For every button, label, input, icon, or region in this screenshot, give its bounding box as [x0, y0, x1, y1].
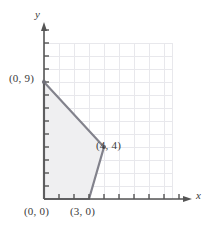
- y-axis-label: y: [35, 8, 40, 20]
- plot-canvas: [0, 0, 211, 229]
- coordinate-plane-figure: (0, 9) (4, 4) (0, 0) (3, 0) y x: [0, 0, 211, 229]
- vertex-label-0-0: (0, 0): [24, 205, 49, 217]
- vertex-label-0-9: (0, 9): [9, 72, 34, 84]
- x-axis-label: x: [196, 189, 201, 201]
- vertex-label-3-0: (3, 0): [70, 205, 95, 217]
- vertex-label-4-4: (4, 4): [96, 139, 121, 151]
- x-axis-arrowhead: [183, 196, 192, 202]
